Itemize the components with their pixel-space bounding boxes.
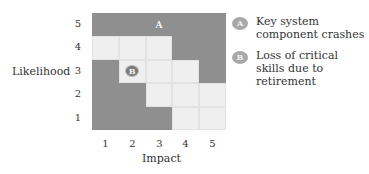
matrix-cell — [119, 13, 146, 36]
matrix-cell — [146, 36, 173, 59]
matrix-cell — [199, 107, 226, 130]
matrix-cell — [172, 83, 199, 106]
matrix-cell — [92, 13, 119, 36]
legend-label: Loss of critical skills due to retiremen… — [256, 49, 338, 88]
matrix-cell — [199, 13, 226, 36]
legend-item: A Key system component crashes — [232, 15, 367, 41]
y-tick: 5 — [73, 18, 83, 29]
matrix-cell — [119, 107, 146, 130]
matrix-cell — [92, 36, 119, 59]
matrix-cell: B — [119, 60, 146, 83]
matrix-cell — [199, 36, 226, 59]
y-tick: 3 — [73, 65, 83, 76]
x-tick: 4 — [172, 138, 199, 149]
y-tick: 1 — [73, 112, 83, 123]
matrix-cell — [146, 83, 173, 106]
marker-a-icon: A — [146, 20, 173, 30]
matrix-cell — [172, 107, 199, 130]
x-tick: 2 — [119, 138, 146, 149]
legend-item: B Loss of critical skills due to retirem… — [232, 49, 367, 88]
matrix-cell — [119, 36, 146, 59]
legend: A Key system component crashes B Loss of… — [232, 15, 367, 96]
matrix-cell — [92, 107, 119, 130]
matrix-cell — [199, 60, 226, 83]
matrix-cell — [146, 60, 173, 83]
matrix-cell — [146, 107, 173, 130]
matrix-cell — [92, 83, 119, 106]
matrix-cell — [199, 83, 226, 106]
y-tick: 4 — [73, 41, 83, 52]
matrix-cell — [92, 60, 119, 83]
marker-b-icon: B — [232, 51, 248, 64]
risk-matrix-grid: AB — [92, 13, 226, 130]
x-axis-label: Impact — [142, 152, 181, 165]
matrix-cell: A — [146, 13, 173, 36]
legend-label: Key system component crashes — [256, 15, 364, 41]
marker-a-icon: A — [232, 17, 248, 30]
matrix-cell — [172, 13, 199, 36]
matrix-cell — [172, 60, 199, 83]
matrix-cell — [119, 83, 146, 106]
marker-b-icon: B — [125, 65, 139, 77]
x-tick: 1 — [92, 138, 119, 149]
y-tick: 2 — [73, 88, 83, 99]
x-tick: 5 — [199, 138, 226, 149]
x-tick: 3 — [146, 138, 173, 149]
y-axis-label: Likelihood — [12, 65, 70, 78]
matrix-cell — [172, 36, 199, 59]
